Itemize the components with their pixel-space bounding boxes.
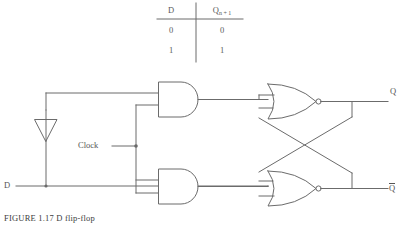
clock-input-label: Clock: [78, 141, 98, 150]
truth-table-header-q-text: Q: [213, 5, 219, 15]
truth-table-row-0-q: 0: [196, 26, 248, 35]
truth-table-row-0-d: 0: [152, 26, 190, 35]
truth-table-header-d: D: [152, 6, 190, 15]
truth-table-header-q-subscript: n + 1: [219, 10, 231, 16]
truth-table: D Qn + 1 0 0 1 1: [152, 2, 248, 64]
and-gate-bottom: [159, 169, 198, 204]
truth-table-header-q: Qn + 1: [196, 6, 248, 15]
figure-caption: FIGURE 1.17 D flip-flop: [4, 213, 95, 223]
d-input-label: D: [4, 181, 10, 190]
truth-table-row-1-q: 1: [196, 46, 248, 55]
wire-qbar-cross: [259, 118, 352, 173]
junction-d-inverter: [44, 184, 47, 187]
q-output-label: Q: [390, 87, 396, 96]
nor-gate-bottom: [268, 171, 321, 206]
nor-gate-top: [268, 84, 321, 119]
wire-q-cross: [259, 117, 352, 172]
qbar-output-label: Q: [389, 183, 395, 193]
and-gate-top: [159, 82, 198, 117]
qbar-output-text: Q: [389, 183, 395, 193]
truth-table-row-1-d: 1: [152, 46, 190, 55]
